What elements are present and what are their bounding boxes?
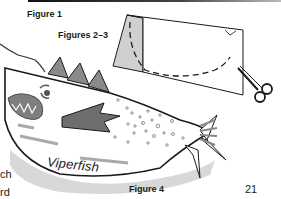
side-text-line-2: rd [0, 186, 10, 198]
viperfish-illustration [0, 0, 281, 199]
folded-paper-figure [113, 15, 243, 95]
page-number: 21 [245, 183, 257, 195]
figure-4-label: Figure 4 [129, 184, 164, 194]
figures-2-3-label: Figures 2–3 [58, 30, 108, 40]
fish-tail [200, 115, 226, 160]
figure-1-label: Figure 1 [27, 9, 62, 19]
side-text-line-1: ch [0, 168, 12, 180]
